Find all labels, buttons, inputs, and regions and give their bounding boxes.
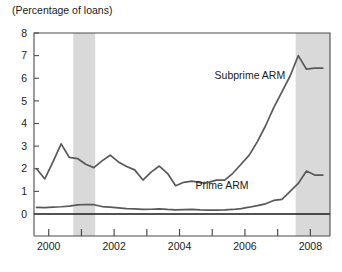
y-tick-label: 5 [21,95,27,107]
y-tick-label: 0 [21,208,27,220]
recession-band-2 [296,33,330,236]
y-tick-label: 3 [21,140,27,152]
chart-plot-area: 01234567820002002200420062008Subprime AR… [0,0,342,272]
y-tick-label: 2 [21,162,27,174]
y-tick-label: 1 [21,185,27,197]
x-tick-label: 2006 [233,240,257,252]
x-tick-label: 2002 [102,240,126,252]
y-tick-label: 8 [21,27,27,39]
series-annotation-prime-arm: Prime ARM [196,179,249,191]
x-tick-label: 2000 [37,240,61,252]
x-tick-label: 2008 [299,240,323,252]
series-annotation-subprime-arm: Subprime ARM [215,69,286,81]
x-tick-label: 2004 [168,240,192,252]
chart-figure: (Percentage of loans) 012345678200020022… [0,0,342,272]
y-tick-label: 7 [21,49,27,61]
y-tick-label: 6 [21,72,27,84]
y-tick-label: 4 [21,117,27,129]
